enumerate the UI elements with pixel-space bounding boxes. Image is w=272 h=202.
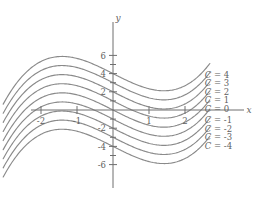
y-tick-label-4: 4 bbox=[101, 69, 106, 79]
plot-canvas: -2-112-6-4-2246 xy C = 4C = 3C = 2C = 1C… bbox=[0, 0, 272, 202]
x-tick-label-1: 1 bbox=[146, 116, 151, 126]
curve-label-c0: C = 0 bbox=[205, 104, 229, 114]
x-axis-label: x bbox=[246, 105, 251, 115]
y-tick-label--6: -6 bbox=[98, 160, 106, 170]
curves-group bbox=[3, 56, 210, 177]
y-tick-label--2: -2 bbox=[98, 123, 106, 133]
y-axis-label: y bbox=[114, 13, 121, 23]
y-tick-label-2: 2 bbox=[101, 87, 106, 97]
x-tick-label-2: 2 bbox=[182, 116, 187, 126]
curve-label-c-4: C = -4 bbox=[205, 141, 232, 151]
curve-c-4 bbox=[3, 129, 210, 177]
x-tick-label--2: -2 bbox=[37, 116, 45, 126]
y-tick-label-6: 6 bbox=[101, 51, 106, 61]
curve-family-figure: -2-112-6-4-2246 xy C = 4C = 3C = 2C = 1C… bbox=[0, 0, 272, 202]
y-tick-label--4: -4 bbox=[98, 142, 106, 152]
curve-labels-group: C = 4C = 3C = 2C = 1C = 0C = -1C = -2C =… bbox=[205, 70, 232, 151]
axis-names-group: xy bbox=[114, 13, 251, 115]
x-tick-label--1: -1 bbox=[73, 116, 81, 126]
